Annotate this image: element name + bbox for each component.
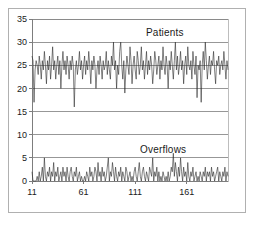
ytick-label: 0 [22, 176, 27, 186]
ytick-label: 30 [17, 37, 27, 47]
chart-canvas: 051015202530351161111161 [0, 0, 257, 227]
xtick-label: 61 [79, 187, 89, 197]
figure-root: 051015202530351161111161 Patients Overfl… [0, 0, 257, 227]
xtick-label: 111 [128, 187, 142, 197]
series-line-overflows [32, 153, 228, 181]
series-label-overflows: Overflows [140, 144, 186, 155]
series-label-patients: Patients [146, 27, 184, 38]
plot-wrapper: 051015202530351161111161 [0, 0, 257, 227]
xtick-label: 161 [179, 187, 194, 197]
ytick-label: 5 [22, 153, 27, 163]
xtick-label: 11 [27, 187, 36, 197]
ytick-label: 35 [17, 14, 27, 24]
ytick-label: 25 [17, 60, 27, 70]
ytick-label: 10 [17, 130, 27, 140]
ytick-label: 15 [17, 107, 27, 117]
ytick-label: 20 [17, 84, 27, 94]
series-line-patients [32, 42, 228, 107]
